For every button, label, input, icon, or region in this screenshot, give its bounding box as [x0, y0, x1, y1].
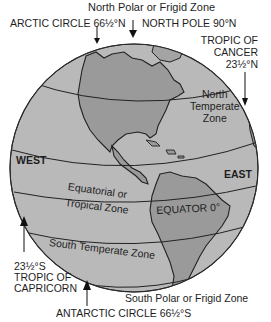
tropic-of-capricorn-label: 23½°S TROPIC OF CAPRICORN [14, 261, 77, 294]
tropic-of-cancer-label: TROPIC OF CANCER 23½°N [201, 34, 258, 70]
north-pole-label: NORTH POLE 90°N [142, 17, 236, 29]
north-temperate-line3: Zone [190, 112, 240, 124]
north-temperate-line1: North [190, 88, 240, 100]
north-pole-arrow [129, 20, 137, 38]
antarctic-circle-label: ANTARCTIC CIRCLE 66½°S [56, 307, 191, 319]
tropic-of-cancer-line1: TROPIC OF [201, 34, 258, 46]
north-temperate-zone-label: North Temperate Zone [190, 88, 240, 124]
tropic-of-capricorn-line3: CAPRICORN [14, 283, 77, 294]
east-label: EAST [224, 168, 252, 180]
tropic-of-cancer-line2: CANCER [201, 46, 258, 58]
tropic-of-cancer-arrow [242, 72, 248, 106]
north-temperate-line2: Temperate [190, 100, 240, 112]
arctic-circle-label: ARCTIC CIRCLE 66½°N [10, 17, 126, 29]
south-polar-zone-label: South Polar or Frigid Zone [125, 292, 248, 304]
tropic-of-cancer-line3: 23½°N [201, 58, 258, 70]
west-label: WEST [16, 154, 46, 166]
north-polar-zone-label: North Polar or Frigid Zone [88, 1, 215, 13]
